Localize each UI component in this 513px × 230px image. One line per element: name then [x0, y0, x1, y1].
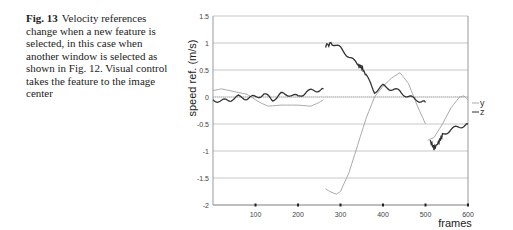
x-tick-label: 400 [377, 211, 389, 218]
x-tick-mark [425, 204, 427, 207]
y-tick-label: 0 [205, 94, 209, 101]
y-tick-label: -1.5 [197, 175, 209, 182]
x-tick-label: 300 [335, 211, 347, 218]
x-tick-mark [467, 204, 469, 207]
x-tick-mark [382, 204, 384, 207]
y-tick-label: 1 [205, 40, 209, 47]
x-tick-label: 200 [292, 211, 304, 218]
y-tick-label: -2 [203, 202, 209, 209]
y-tick-label: -0.5 [197, 121, 209, 128]
x-tick-label: 500 [420, 211, 432, 218]
x-tick-label: 100 [250, 211, 262, 218]
velocity-chart: 1.510.50-0.5-1-1.5-2100200300400500600fr… [0, 0, 513, 230]
legend-label-z: z [480, 107, 485, 117]
x-tick-mark [255, 204, 257, 207]
y-tick-label: 1.5 [199, 13, 209, 20]
x-tick-mark [340, 204, 342, 207]
series-z-line [326, 43, 426, 103]
series-y-line [326, 73, 426, 195]
series-z-line [430, 124, 468, 150]
y-tick-label: 0.5 [199, 67, 209, 74]
x-tick-mark [297, 204, 299, 207]
y-axis-label: speed ref. (m/s) [186, 39, 198, 116]
x-axis-label: frames [438, 217, 472, 229]
y-tick-label: -1 [203, 148, 209, 155]
